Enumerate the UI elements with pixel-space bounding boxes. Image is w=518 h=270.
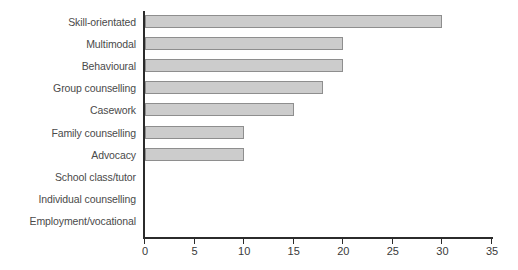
bar xyxy=(145,148,244,161)
category-label: Behavioural xyxy=(0,55,136,77)
bar-chart: Skill-orientatedMultimodalBehaviouralGro… xyxy=(0,0,518,270)
category-label: Advocacy xyxy=(0,144,136,166)
x-tick-label: 5 xyxy=(180,245,210,257)
x-tick-label: 35 xyxy=(477,245,507,257)
x-tick-label: 10 xyxy=(229,245,259,257)
category-label: Individual counselling xyxy=(0,188,136,210)
x-tick xyxy=(342,239,343,244)
x-tick xyxy=(441,239,442,244)
x-tick xyxy=(392,239,393,244)
bar-row: Employment/vocational xyxy=(0,210,518,232)
bar xyxy=(145,126,244,139)
bar-row: Family counselling xyxy=(0,122,518,144)
category-label: Group counselling xyxy=(0,77,136,99)
bar-row: Casework xyxy=(0,99,518,121)
plot-area: Skill-orientatedMultimodalBehaviouralGro… xyxy=(0,0,518,270)
bar-row: Individual counselling xyxy=(0,188,518,210)
x-tick xyxy=(194,239,195,244)
x-tick-label: 0 xyxy=(130,245,160,257)
bar xyxy=(145,37,343,50)
x-tick xyxy=(293,239,294,244)
bar xyxy=(145,81,323,94)
bar-row: Behavioural xyxy=(0,55,518,77)
category-label: School class/tutor xyxy=(0,166,136,188)
x-tick xyxy=(491,239,492,244)
bar-row: Skill-orientated xyxy=(0,11,518,33)
x-tick-label: 25 xyxy=(378,245,408,257)
category-label: Casework xyxy=(0,99,136,121)
category-label: Employment/vocational xyxy=(0,210,136,232)
bar xyxy=(145,59,343,72)
category-label: Skill-orientated xyxy=(0,11,136,33)
bar-row: School class/tutor xyxy=(0,166,518,188)
bar-row: Group counselling xyxy=(0,77,518,99)
bar-row: Advocacy xyxy=(0,144,518,166)
bar xyxy=(145,15,442,28)
x-tick-label: 30 xyxy=(427,245,457,257)
x-tick xyxy=(144,239,145,244)
bar-row: Multimodal xyxy=(0,33,518,55)
bar xyxy=(145,103,294,116)
category-label: Multimodal xyxy=(0,33,136,55)
category-label: Family counselling xyxy=(0,122,136,144)
x-tick-label: 20 xyxy=(328,245,358,257)
x-tick xyxy=(243,239,244,244)
x-tick-label: 15 xyxy=(279,245,309,257)
